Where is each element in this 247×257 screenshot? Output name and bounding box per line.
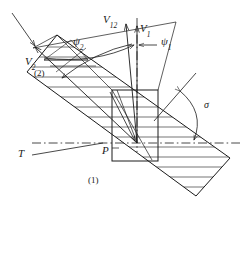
label-V1: V1 [140,23,150,37]
diagram-svg [0,0,247,257]
label-point-P: P [102,145,109,156]
label-region-1: (1) [88,176,99,185]
label-T: T [18,148,24,159]
label-V12: V12 [103,14,117,28]
hatched-slab [10,35,247,197]
label-region-2: (2) [34,69,45,78]
upper-left-ray [12,13,35,46]
vector-V1-return [110,92,135,141]
label-sigma: σ [204,100,209,110]
label-psi2: ψ2 [73,36,84,50]
label-psi1: ψ1 [161,36,172,50]
vector-V12 [126,24,137,143]
figure-canvas: V12 V1 V2 ψ2 ψ1 σ P T (1) (2) [0,0,247,257]
T-leader-line [32,143,103,155]
slab-hatching [10,47,247,197]
upper-skew-plane [33,22,176,90]
